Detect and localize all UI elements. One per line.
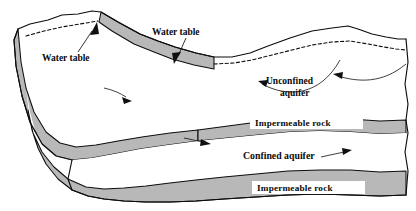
cross-section-svg: Water table Water table Unconfined aquif… [0, 0, 416, 211]
impermeable-rock-lower-annotation: Impermeable rock [252, 181, 365, 194]
unconfined-aquifer-label-line1: Unconfined [266, 76, 314, 86]
unconfined-aquifer-label-line2: aquifer [280, 88, 310, 98]
confined-aquifer-label: Confined aquifer [243, 150, 315, 161]
impermeable-rock-lower-label: Impermeable rock [257, 183, 333, 193]
impermeable-rock-upper-annotation: Impermeable rock [250, 116, 363, 129]
water-table-left-label: Water table [42, 53, 90, 63]
water-table-right-label: Water table [152, 27, 200, 37]
impermeable-rock-upper-label: Impermeable rock [255, 118, 331, 128]
terrain-block [14, 11, 408, 202]
aquifer-diagram: Water table Water table Unconfined aquif… [0, 0, 416, 211]
